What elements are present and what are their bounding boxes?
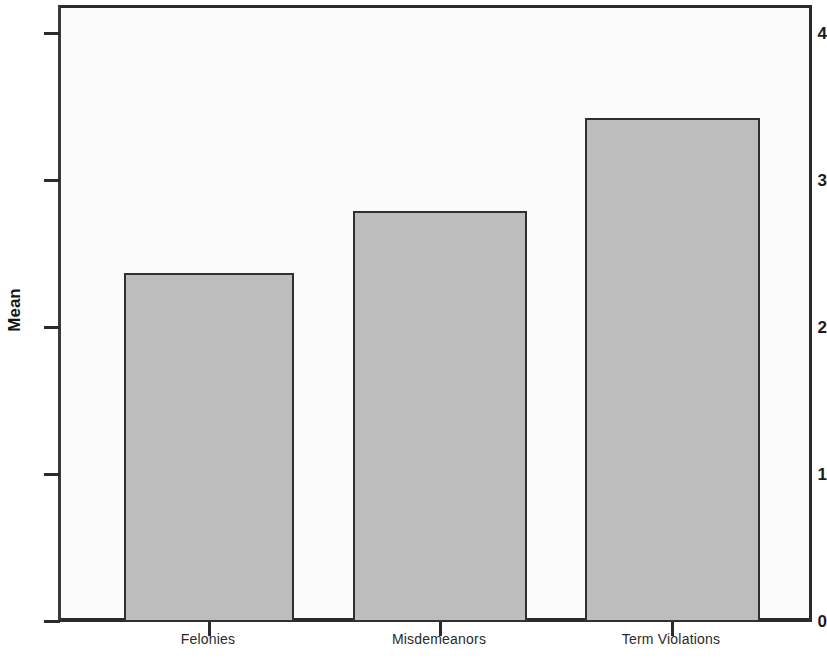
y-axis-tick-1 xyxy=(44,473,60,476)
y-axis-tick-4 xyxy=(44,32,60,35)
x-axis-label-misdemeanors: Misdemeanors xyxy=(339,631,539,647)
y-axis-tick-label-1: 1 xyxy=(801,466,827,483)
x-axis-label-felonies: Felonies xyxy=(108,631,308,647)
y-axis-tick-label-2: 2 xyxy=(801,319,827,336)
y-axis-tick-2 xyxy=(44,326,60,329)
bar-misdemeanors xyxy=(353,211,527,622)
y-axis-tick-label-4: 4 xyxy=(801,25,827,42)
y-axis-title: Mean xyxy=(5,275,25,345)
y-axis-tick-label-3: 3 xyxy=(801,172,827,189)
bar-chart: 0 1 2 3 4 Mean Felonies Misdemeanors Ter… xyxy=(0,0,827,659)
bar-term-violations xyxy=(585,118,760,622)
bar-felonies xyxy=(124,273,294,622)
y-axis-tick-0 xyxy=(44,620,60,623)
x-axis-label-term-violations: Term Violations xyxy=(571,631,771,647)
y-axis-tick-label-0: 0 xyxy=(801,613,827,630)
y-axis-tick-3 xyxy=(44,179,60,182)
